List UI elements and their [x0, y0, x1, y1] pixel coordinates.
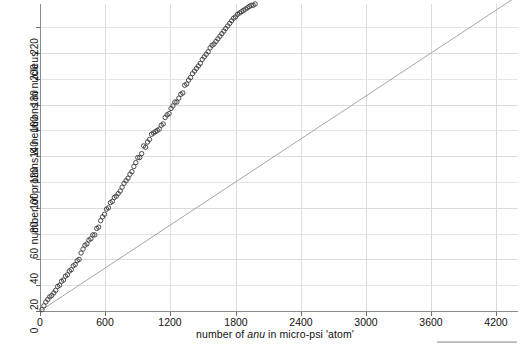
data-point [216, 37, 220, 41]
data-point [67, 269, 71, 273]
data-point [210, 43, 214, 47]
data-point [65, 273, 69, 277]
data-point [222, 29, 226, 33]
data-point [192, 69, 196, 73]
x-axis-label-prefix: number of [196, 328, 247, 340]
data-point [73, 262, 77, 266]
gridline-horizontal [40, 156, 518, 157]
data-point [126, 176, 130, 180]
gridline-vertical [301, 4, 302, 311]
data-point [98, 219, 102, 223]
x-axis-label-suffix: in micro-psi 'atom' [265, 328, 354, 340]
data-point [179, 92, 183, 96]
gridline-horizontal [40, 105, 518, 106]
data-point [108, 200, 112, 204]
gridline-horizontal [40, 259, 518, 260]
data-point [130, 169, 134, 173]
gridline-vertical [236, 4, 237, 311]
data-point [245, 6, 249, 10]
x-axis-tick-label: 2400 [289, 316, 312, 328]
data-point [145, 140, 149, 144]
data-point [132, 164, 136, 168]
data-point [87, 238, 91, 242]
x-axis-line [40, 311, 518, 312]
x-axis-tick-label: 3600 [419, 316, 442, 328]
data-point [247, 4, 251, 8]
data-point [181, 91, 185, 95]
data-point [89, 237, 93, 241]
data-point [44, 300, 48, 304]
data-point [249, 3, 253, 7]
data-point [79, 251, 83, 255]
data-point [214, 39, 218, 43]
data-point [237, 11, 241, 15]
data-point [241, 8, 245, 12]
x-axis-tick-label: 4200 [484, 316, 507, 328]
gridline-vertical [431, 4, 432, 311]
data-point [151, 131, 155, 135]
data-point [251, 3, 255, 7]
data-point [48, 295, 52, 299]
data-point [196, 64, 200, 68]
data-point [128, 172, 132, 176]
data-point [143, 145, 147, 149]
data-point [163, 115, 167, 119]
data-point [42, 304, 46, 308]
data-point [112, 195, 116, 199]
y-axis-tick-label: 220 [29, 27, 40, 67]
gridline-horizontal [40, 53, 518, 54]
x-axis-tick-label: 1800 [224, 316, 247, 328]
data-point [190, 71, 194, 75]
data-point [53, 288, 57, 292]
data-point [83, 243, 87, 247]
x-axis-label: number of anu in micro-psi 'atom' [40, 328, 510, 340]
data-point [95, 226, 99, 230]
gridline-horizontal [40, 234, 518, 235]
data-point [141, 144, 145, 148]
data-point [194, 66, 198, 70]
gridline-horizontal [40, 182, 518, 183]
chart-figure: number of protons & neutrons in nucleus … [0, 0, 522, 349]
data-point [173, 100, 177, 104]
data-point [200, 57, 204, 61]
x-axis-tick-label: 600 [96, 316, 114, 328]
x-axis-label-italic: anu [247, 328, 265, 340]
data-point [159, 123, 163, 127]
data-point [208, 46, 212, 50]
data-point [147, 137, 151, 141]
data-point [227, 21, 231, 25]
x-axis-tick-label: 3000 [354, 316, 377, 328]
x-axis-tick-label: 1200 [158, 316, 181, 328]
data-point [96, 225, 100, 229]
data-point [183, 83, 187, 87]
footer-rule [437, 341, 517, 343]
gridline-horizontal [40, 208, 518, 209]
data-point [239, 10, 243, 14]
y-axis-line [40, 4, 41, 312]
data-point [116, 191, 120, 195]
data-point [50, 293, 54, 297]
gridline-horizontal [40, 27, 518, 28]
data-point [46, 297, 50, 301]
data-point [149, 132, 153, 136]
gridline-horizontal [40, 285, 518, 286]
data-point [71, 264, 75, 268]
gridline-horizontal [40, 130, 518, 131]
data-point [218, 34, 222, 38]
data-point [212, 42, 216, 46]
data-point [184, 82, 188, 86]
data-point [253, 2, 257, 6]
data-point [165, 113, 169, 117]
data-point [177, 96, 181, 100]
data-point [220, 31, 224, 35]
data-point [110, 199, 114, 203]
data-point [202, 55, 206, 59]
gridline-horizontal [40, 79, 518, 80]
data-point [120, 185, 124, 189]
data-point [198, 61, 202, 65]
gridline-vertical [496, 4, 497, 311]
data-point [243, 7, 247, 11]
data-point [69, 268, 73, 272]
data-point [134, 160, 138, 164]
data-point [118, 189, 122, 193]
